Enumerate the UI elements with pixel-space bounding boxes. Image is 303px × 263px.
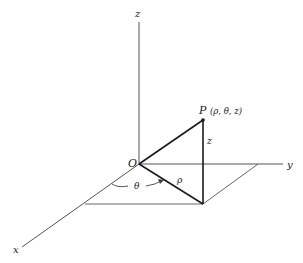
theta-label: θ <box>134 181 140 191</box>
rho-label: ρ <box>176 175 183 185</box>
op-segment <box>139 120 203 164</box>
rho-segment <box>139 164 203 204</box>
height-label: z <box>206 136 212 146</box>
x-axis-label: x <box>13 244 19 255</box>
point-coords-label: (ρ, θ, z) <box>210 106 242 116</box>
y-axis-label: y <box>286 159 293 170</box>
cylindrical-coordinates-diagram: z y x O P (ρ, θ, z) z ρ θ <box>0 0 303 263</box>
point-name-label: P <box>198 104 207 117</box>
projection-line-y <box>203 164 258 204</box>
z-axis-label: z <box>134 8 141 19</box>
origin-label: O <box>128 157 137 170</box>
x-axis <box>22 164 139 247</box>
point-p <box>201 118 205 122</box>
theta-arc <box>112 184 128 187</box>
